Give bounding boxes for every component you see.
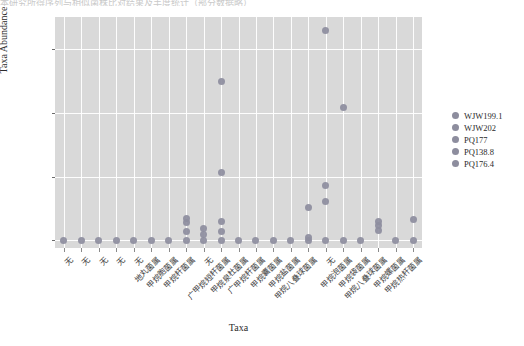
vertical-gridline bbox=[99, 17, 100, 248]
x-axis-tick bbox=[169, 248, 170, 252]
legend-item[interactable]: WJW199.1 bbox=[452, 110, 502, 121]
legend-label: PQ176.4 bbox=[464, 159, 494, 169]
data-point bbox=[392, 237, 399, 244]
data-point bbox=[60, 237, 67, 244]
vertical-gridline bbox=[239, 17, 240, 248]
x-axis-tick bbox=[204, 248, 205, 252]
vertical-gridline bbox=[221, 17, 222, 248]
data-point bbox=[113, 237, 120, 244]
data-point bbox=[78, 237, 85, 244]
data-point bbox=[218, 228, 225, 235]
x-axis-tick bbox=[256, 248, 257, 252]
x-axis-tick bbox=[361, 248, 362, 252]
data-point bbox=[322, 198, 329, 205]
data-point bbox=[183, 228, 190, 235]
x-axis-tick bbox=[186, 248, 187, 252]
data-point bbox=[357, 237, 364, 244]
vertical-gridline bbox=[256, 17, 257, 248]
legend-dot-icon bbox=[452, 124, 459, 131]
x-axis-tick bbox=[221, 248, 222, 252]
x-axis-tick bbox=[239, 248, 240, 252]
data-point bbox=[183, 237, 190, 244]
data-point bbox=[165, 237, 172, 244]
data-point bbox=[200, 231, 207, 238]
data-point bbox=[322, 237, 329, 244]
vertical-gridline bbox=[116, 17, 117, 248]
data-point bbox=[218, 218, 225, 225]
data-point bbox=[95, 237, 102, 244]
vertical-gridline bbox=[413, 17, 414, 248]
vertical-gridline bbox=[378, 17, 379, 248]
vertical-gridline bbox=[396, 17, 397, 248]
data-point bbox=[183, 215, 190, 222]
x-axis-tick bbox=[343, 248, 344, 252]
x-axis-tick bbox=[151, 248, 152, 252]
data-point bbox=[252, 237, 259, 244]
legend-dot-icon bbox=[452, 160, 459, 167]
data-point bbox=[322, 27, 329, 34]
legend-item[interactable]: PQ177 bbox=[452, 134, 502, 145]
vertical-gridline bbox=[151, 17, 152, 248]
data-point bbox=[218, 169, 225, 176]
legend-label: PQ138.8 bbox=[464, 147, 494, 157]
plot-panel bbox=[55, 17, 422, 248]
x-axis-tick bbox=[273, 248, 274, 252]
vertical-gridline bbox=[308, 17, 309, 248]
legend-item[interactable]: WJW202 bbox=[452, 122, 502, 133]
x-axis-tick bbox=[326, 248, 327, 252]
chart-root: 本研究所得序列与相似菌株比对结果及丰度统计（部分数据略） Taxa Abunda… bbox=[0, 0, 524, 346]
vertical-gridline bbox=[273, 17, 274, 248]
data-point bbox=[235, 237, 242, 244]
vertical-gridline bbox=[343, 17, 344, 248]
data-point bbox=[340, 104, 347, 111]
x-axis-tick bbox=[378, 248, 379, 252]
vertical-gridline bbox=[326, 17, 327, 248]
data-point bbox=[218, 237, 225, 244]
x-axis-tick bbox=[134, 248, 135, 252]
legend-label: WJW202 bbox=[464, 123, 496, 133]
data-point bbox=[287, 237, 294, 244]
x-axis-tick bbox=[81, 248, 82, 252]
x-axis-tick bbox=[396, 248, 397, 252]
legend: WJW199.1WJW202PQ177PQ138.8PQ176.4 bbox=[452, 110, 502, 170]
y-axis-title: Taxa Abundance bbox=[0, 0, 9, 100]
data-point bbox=[130, 237, 137, 244]
faint-header-text: 本研究所得序列与相似菌株比对结果及丰度统计（部分数据略） bbox=[0, 0, 430, 6]
vertical-gridline bbox=[134, 17, 135, 248]
vertical-gridline bbox=[169, 17, 170, 248]
horizontal-gridline bbox=[55, 113, 422, 114]
data-point bbox=[410, 237, 417, 244]
legend-item[interactable]: PQ138.8 bbox=[452, 146, 502, 157]
data-point bbox=[322, 182, 329, 189]
vertical-gridline bbox=[64, 17, 65, 248]
data-point bbox=[305, 234, 312, 241]
data-point bbox=[218, 78, 225, 85]
legend-dot-icon bbox=[452, 148, 459, 155]
y-axis-tick bbox=[52, 240, 55, 241]
horizontal-gridline bbox=[55, 49, 422, 50]
y-axis-tick bbox=[52, 49, 55, 50]
legend-dot-icon bbox=[452, 136, 459, 143]
legend-label: WJW199.1 bbox=[464, 111, 502, 121]
legend-label: PQ177 bbox=[464, 135, 488, 145]
vertical-gridline bbox=[361, 17, 362, 248]
legend-item[interactable]: PQ176.4 bbox=[452, 158, 502, 169]
data-point bbox=[270, 237, 277, 244]
y-axis-tick bbox=[52, 177, 55, 178]
x-axis-tick bbox=[64, 248, 65, 252]
x-axis-tick bbox=[99, 248, 100, 252]
data-point bbox=[148, 237, 155, 244]
data-point bbox=[305, 204, 312, 211]
x-axis-tick bbox=[291, 248, 292, 252]
vertical-gridline bbox=[291, 17, 292, 248]
data-point bbox=[410, 216, 417, 223]
legend-dot-icon bbox=[452, 112, 459, 119]
x-axis-tick bbox=[116, 248, 117, 252]
vertical-gridline bbox=[81, 17, 82, 248]
vertical-gridline bbox=[204, 17, 205, 248]
horizontal-gridline bbox=[55, 177, 422, 178]
y-axis-tick bbox=[52, 113, 55, 114]
x-axis-tick bbox=[413, 248, 414, 252]
x-axis-tick bbox=[308, 248, 309, 252]
vertical-gridline bbox=[186, 17, 187, 248]
